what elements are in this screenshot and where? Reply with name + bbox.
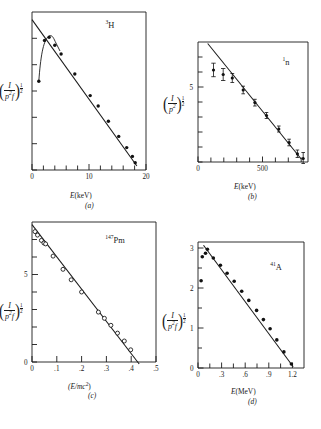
panel-c-data-points (33, 230, 133, 352)
panel-d-nuclide-label: 41A (270, 261, 282, 272)
panel-a-xtick-10: 10 (85, 173, 93, 181)
panel-c-plot: 0 .1 .2 .3 .4 .5 0 5 147Pm (30, 222, 160, 387)
panel-b-point-errorbar (241, 86, 245, 94)
panel-d-ytick-0: 0 (190, 365, 194, 373)
panel-c-x-axis-label: (E/mc2) (68, 381, 91, 391)
panel-d-xtick-6: .6 (243, 371, 249, 379)
panel-d-x-axis-label: E(MeV) (231, 387, 256, 396)
panel-c-tag: (c) (88, 391, 96, 400)
panel-d-y-axis-label: (Ip2f)12 (162, 312, 186, 331)
kurie-plot-figure: 0 10 20 3H (Ip2f)12 E(keV) (a) (0, 0, 321, 429)
panel-b-xtick-500: 500 (257, 165, 268, 173)
panel-a-nuclide-label: 3H (106, 19, 115, 30)
panel-b-point-errorbar (277, 126, 281, 132)
panel-d-x-ticks (198, 363, 292, 369)
panel-d-y-ticks (198, 248, 204, 368)
panel-a-y-ticks (32, 38, 37, 170)
panel-d-xtick-12: 1.2 (288, 371, 297, 379)
panel-c-frame (32, 222, 156, 362)
panel-c-y-axis-label: (Ip2f)12 (0, 302, 23, 321)
panel-a-xtick-20: 20 (142, 173, 150, 181)
panel-c-xtick-2: .2 (79, 365, 85, 373)
panel-b-plot: 0 500 5 1n (196, 40, 312, 180)
panel-d-ytick-3: 3 (190, 245, 194, 253)
panel-b-nuclide-label: 1n (283, 56, 291, 67)
panel-a-y-axis-label: (Ip2f)12 (0, 82, 23, 101)
panel-d-xtick-3: .3 (219, 371, 225, 379)
panel-c-xtick-1: .1 (54, 365, 60, 373)
panel-d-ytick-2: 2 (190, 285, 194, 293)
panel-c-ytick-5: 5 (24, 271, 28, 279)
panel-c-xtick-5: .5 (153, 365, 159, 373)
panel-a-plot: 0 10 20 3H (30, 10, 150, 185)
panel-c-xtick-4: .4 (129, 365, 135, 373)
panel-d-plot: 0 .3 .6 .9 1.2 0 1 2 3 41A (196, 240, 312, 395)
panel-a-xtick-0: 0 (30, 173, 34, 181)
panel-c-nuclide-label: 147Pm (105, 234, 125, 245)
panel-d-ytick-1: 1 (190, 325, 194, 333)
panel-b-tag: (b) (248, 192, 257, 201)
panel-a-anomaly-curve (39, 36, 60, 82)
panel-a-x-ticks (32, 164, 146, 170)
panel-b-ytick-5: 5 (189, 84, 193, 92)
panel-d: 0 .3 .6 .9 1.2 0 1 2 3 41A (Ip2f)12 E(Me… (196, 240, 312, 395)
panel-d-tag: (d) (248, 397, 257, 406)
panel-b-data-points (211, 63, 305, 163)
panel-a: 0 10 20 3H (Ip2f)12 E(keV) (a) (30, 10, 150, 185)
panel-d-xtick-0: 0 (196, 371, 200, 379)
panel-b-y-ticks (198, 57, 204, 162)
panel-d-xtick-9: .9 (266, 371, 272, 379)
panel-b-frame (198, 42, 308, 162)
panel-a-x-axis-label: E(keV) (70, 191, 92, 200)
panel-c-xtick-3: .3 (104, 365, 110, 373)
panel-b-x-ticks (198, 157, 301, 163)
panel-b: 0 500 5 1n (Ip2)12 E(keV) (b) (196, 40, 312, 180)
panel-a-fit-line (32, 20, 137, 166)
panel-b-point-errorbar (211, 63, 215, 76)
panel-b-xtick-0: 0 (196, 165, 200, 173)
panel-c-y-ticks (32, 240, 38, 363)
panel-a-tag: (a) (85, 201, 94, 210)
panel-b-x-axis-label: E(keV) (234, 182, 256, 191)
panel-c-xtick-0: 0 (30, 365, 34, 373)
panel-c: 0 .1 .2 .3 .4 .5 0 5 147Pm (Ip2f)12 (E/m… (30, 222, 160, 387)
panel-d-frame (198, 242, 304, 368)
panel-b-y-axis-label: (Ip2)12 (163, 95, 184, 114)
panel-b-point-errorbar (221, 69, 225, 81)
panel-c-ytick-0: 0 (24, 359, 28, 367)
